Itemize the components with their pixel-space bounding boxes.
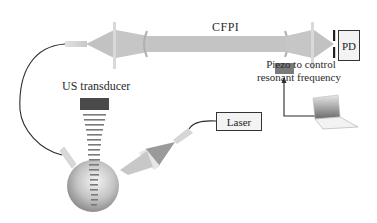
cfpi-probe	[60, 147, 76, 168]
us-transducer-label: US transducer	[62, 79, 130, 94]
cfpi-setup-diagram	[0, 0, 377, 223]
laser-delivery-optics	[120, 128, 193, 175]
photodetector-box: PD	[338, 30, 360, 61]
piezo-label-line2: resonant frequency	[257, 71, 341, 84]
piezo-label: Piezo to control resonant frequency	[261, 58, 341, 84]
laser-box: Laser	[216, 112, 262, 131]
cfpi-label: CFPI	[212, 20, 239, 35]
optical-fiber-laser	[189, 121, 216, 129]
piezo-label-line1: Piezo to control	[261, 58, 341, 71]
optical-fiber-left	[20, 44, 65, 155]
laptop-icon	[313, 95, 358, 129]
us-transducer	[80, 98, 109, 110]
